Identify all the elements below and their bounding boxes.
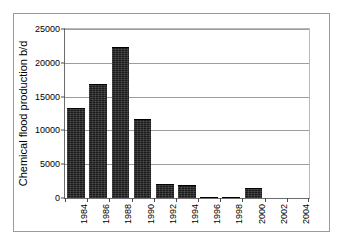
bar xyxy=(67,108,85,198)
x-tick-label: 1996 xyxy=(213,204,222,224)
bar-slot xyxy=(220,29,242,198)
x-tick-mark xyxy=(154,198,155,202)
plot-area: 0500010000150002000025000 19841986198819… xyxy=(64,28,310,199)
x-tick-mark xyxy=(87,198,88,202)
x-tick-label: 1988 xyxy=(124,204,133,224)
x-tick-mark xyxy=(308,198,309,202)
x-tick-label: 2002 xyxy=(280,204,289,224)
bar xyxy=(222,197,240,198)
bar-slot xyxy=(265,29,287,198)
x-tick-label: 1998 xyxy=(235,204,244,224)
x-tick-label: 1994 xyxy=(191,204,200,224)
bar-series xyxy=(65,29,309,198)
y-axis-title: Chemical flood production b/d xyxy=(16,28,30,199)
bar-slot xyxy=(176,29,198,198)
bar xyxy=(112,47,130,198)
bar xyxy=(178,185,196,198)
bar-slot xyxy=(154,29,176,198)
bar xyxy=(156,184,174,198)
bar xyxy=(200,197,218,198)
x-tick-mark xyxy=(220,198,221,202)
x-tick-mark xyxy=(287,198,288,202)
bar xyxy=(134,119,152,198)
bar-slot xyxy=(109,29,131,198)
bar-slot xyxy=(132,29,154,198)
x-tick-label: 1990 xyxy=(147,204,156,224)
y-tick-label: 20000 xyxy=(35,58,60,67)
x-tick-mark xyxy=(132,198,133,202)
bar-slot xyxy=(198,29,220,198)
x-tick-label: 1992 xyxy=(169,204,178,224)
x-tick-mark xyxy=(242,198,243,202)
bar-slot xyxy=(242,29,264,198)
y-tick-label: 25000 xyxy=(35,25,60,34)
y-tick-label: 15000 xyxy=(35,92,60,101)
x-tick-mark xyxy=(265,198,266,202)
bar-slot xyxy=(65,29,87,198)
bar xyxy=(245,188,263,198)
x-tick-mark xyxy=(65,198,66,202)
bar xyxy=(89,84,107,198)
x-tick-label: 1984 xyxy=(80,204,89,224)
y-tick-label: 10000 xyxy=(35,126,60,135)
y-tick-label: 0 xyxy=(55,194,60,203)
x-tick-mark xyxy=(176,198,177,202)
x-tick-label: 1986 xyxy=(102,204,111,224)
x-tick-label: 2004 xyxy=(302,204,311,224)
x-tick-label: 2000 xyxy=(258,204,267,224)
bar-slot xyxy=(87,29,109,198)
bar-slot xyxy=(287,29,309,198)
x-tick-mark xyxy=(198,198,199,202)
chart-figure: Chemical flood production b/d 0500010000… xyxy=(13,13,330,232)
y-tick-label: 5000 xyxy=(40,160,60,169)
x-tick-mark xyxy=(109,198,110,202)
